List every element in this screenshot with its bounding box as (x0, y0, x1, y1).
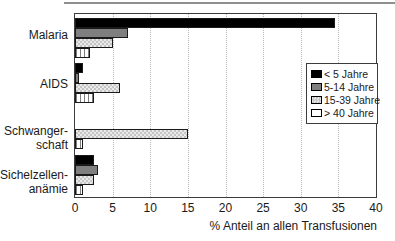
bar-sichelzellenanmie-series3 (75, 185, 83, 195)
category-label-line: Schwanger- (0, 124, 68, 138)
bar-sichelzellenanmie-series1 (75, 165, 98, 175)
legend-item-under5: < 5 Jahre (311, 68, 377, 80)
legend: < 5 Jahre 5-14 Jahre 15-39 Jahre > 40 Ja… (306, 63, 378, 124)
legend-label: < 5 Jahre (324, 68, 368, 80)
bar-schwangerschaft-series2 (75, 129, 188, 139)
bar-aids-series2 (75, 83, 120, 93)
legend-item-15-39: 15-39 Jahre (311, 94, 377, 106)
x-axis-label: % Anteil an allen Transfusionen (210, 219, 377, 233)
x-tick-label-30: 30 (294, 201, 307, 215)
x-tick-label-0: 0 (72, 201, 79, 215)
bar-malaria-series3 (75, 48, 90, 58)
x-tick-label-25: 25 (256, 201, 269, 215)
bar-malaria-series0 (75, 18, 335, 28)
x-tick-label-40: 40 (369, 201, 382, 215)
bar-schwangerschaft-series3 (75, 139, 83, 149)
legend-item-over40: > 40 Jahre (311, 107, 377, 119)
category-label-schwangerschaft: Schwanger- schaft (0, 124, 68, 152)
bar-aids-series0 (75, 63, 83, 73)
bar-malaria-series1 (75, 28, 128, 38)
gridline-25 (263, 14, 264, 197)
legend-label: 15-39 Jahre (324, 94, 380, 106)
legend-swatch-white-icon (311, 109, 322, 117)
category-label-line: AIDS (0, 77, 68, 91)
category-label-malaria: Malaria (0, 28, 68, 42)
legend-swatch-darkgray-icon (311, 83, 322, 91)
legend-label: 5-14 Jahre (324, 81, 374, 93)
legend-item-5-14: 5-14 Jahre (311, 81, 377, 93)
gridline-20 (226, 14, 227, 197)
gridline-10 (150, 14, 151, 197)
x-tick-label-5: 5 (109, 201, 116, 215)
x-tick-label-20: 20 (219, 201, 232, 215)
category-label-line: anämie (0, 182, 68, 196)
category-label-aids: AIDS (0, 77, 68, 91)
legend-swatch-checker-icon (311, 96, 322, 104)
category-label-line: Sichelzellen- (0, 168, 68, 182)
x-tick-label-35: 35 (332, 201, 345, 215)
top-rule-divider (64, 2, 395, 4)
bar-aids-series3 (75, 93, 94, 103)
category-label-line: Malaria (0, 28, 68, 42)
gridline-30 (301, 14, 302, 197)
category-label-sichelzellenanaemie: Sichelzellen- anämie (0, 168, 68, 196)
bar-sichelzellenanmie-series2 (75, 175, 94, 185)
x-tick-label-10: 10 (144, 201, 157, 215)
category-label-line: schaft (0, 138, 68, 152)
gridline-15 (188, 14, 189, 197)
legend-label: > 40 Jahre (324, 107, 374, 119)
gridline-5 (113, 14, 114, 197)
bar-aids-series1 (75, 73, 79, 83)
bar-sichelzellenanmie-series0 (75, 155, 94, 165)
bar-malaria-series2 (75, 38, 113, 48)
x-tick-label-15: 15 (181, 201, 194, 215)
legend-swatch-black-icon (311, 70, 322, 78)
figure: Malaria AIDS Schwanger- schaft Sichelzel… (0, 0, 395, 241)
